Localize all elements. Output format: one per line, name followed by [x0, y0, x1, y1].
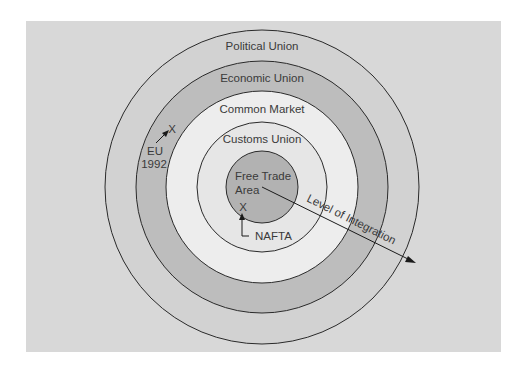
nafta-marker-x: X	[239, 201, 247, 213]
label-common-market: Common Market	[220, 103, 306, 115]
label-eu-year: 1992	[141, 158, 167, 170]
label-eu: EU	[147, 145, 163, 157]
label-economic-union: Economic Union	[220, 72, 304, 84]
label-political-union: Political Union	[226, 40, 299, 52]
label-nafta: NAFTA	[255, 230, 292, 242]
integration-diagram: Political Union Economic Union Common Ma…	[0, 0, 530, 369]
label-free-trade-line1: Free Trade	[235, 170, 291, 182]
label-customs-union: Customs Union	[223, 133, 302, 145]
eu-marker-x: X	[168, 123, 176, 135]
label-free-trade-line2: Area	[235, 184, 260, 196]
integration-arrowhead-icon	[405, 256, 416, 263]
